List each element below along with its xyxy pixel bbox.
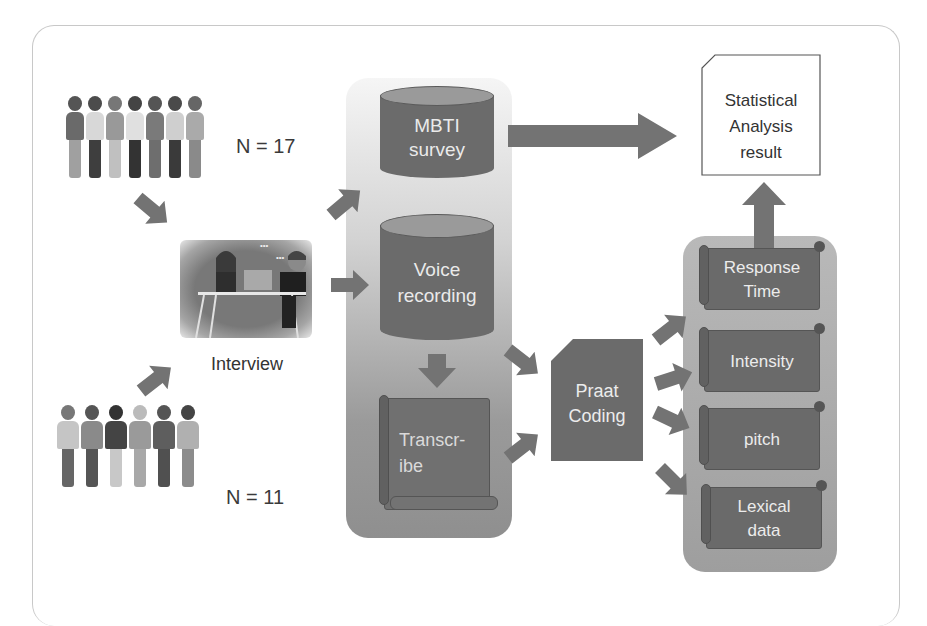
svg-text:•••: ••• (276, 253, 285, 262)
interview-illustration: ••• ••• (180, 240, 312, 338)
voice-label-line1: Voice (380, 258, 494, 282)
feature-pitch-label: pitch (705, 429, 819, 451)
women-group-illustration (66, 96, 204, 178)
feature-lexical-data: Lexical data (706, 487, 822, 549)
mbti-label-line1: MBTI (380, 114, 494, 138)
transcribe-label-line2: ibe (399, 455, 489, 477)
result-label-line3: result (701, 140, 821, 166)
women-count-label: N = 17 (236, 135, 295, 158)
svg-text:•••: ••• (260, 241, 269, 250)
transcribe-label-line1: Transcr- (399, 429, 489, 451)
feature-response-time-line1: Response (705, 257, 819, 279)
transcribe-scroll-roll (390, 496, 498, 510)
feature-intensity-label: Intensity (705, 351, 819, 373)
result-label-line2: Analysis (701, 114, 821, 140)
mbti-survey-node: MBTI survey (380, 86, 494, 178)
result-label: Statistical Analysis result (701, 88, 821, 166)
feature-pitch: pitch (704, 408, 820, 470)
men-count-label: N = 11 (226, 486, 284, 509)
men-group-illustration (57, 405, 199, 487)
voice-recording-node: Voice recording (380, 214, 494, 340)
result-label-line1: Statistical (701, 88, 821, 114)
praat-label-line2: Coding (551, 405, 643, 427)
feature-response-time-line2: Time (705, 281, 819, 303)
feature-response-time: Response Time (704, 248, 820, 310)
feature-intensity: Intensity (704, 330, 820, 392)
voice-label-line2: recording (380, 284, 494, 308)
transcribe-node: Transcr- ibe (384, 398, 490, 510)
mbti-label-line2: survey (380, 138, 494, 162)
feature-lexical-line2: data (707, 520, 821, 542)
praat-label-line1: Praat (551, 380, 643, 402)
interview-label: Interview (211, 354, 283, 375)
feature-lexical-line1: Lexical (707, 496, 821, 518)
